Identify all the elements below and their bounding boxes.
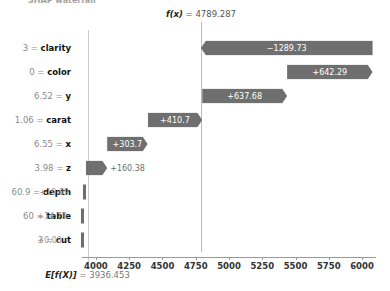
x-axis-tick (262, 257, 263, 260)
feature-name: z (66, 163, 71, 173)
waterfall-row: 1.06 = carat+410.7 (0, 108, 390, 132)
base-value-annotation: E[f(X)] = 3936.453 (45, 270, 130, 280)
feature-name: x (66, 139, 71, 149)
bar-value-label: +410.7 (160, 116, 190, 125)
x-axis-tick-label: 5000 (217, 261, 241, 271)
feature-value: 60 (23, 211, 34, 221)
bar-value-label: +642.29 (312, 68, 347, 77)
waterfall-bar: +303.7 (107, 137, 147, 152)
x-axis-tick-label: 6000 (350, 261, 374, 271)
x-axis-tick (296, 257, 297, 260)
feature-separator: = (34, 115, 47, 125)
bar-value-label: +303.7 (113, 140, 143, 149)
x-axis-tick (329, 257, 330, 260)
feature-separator: = (53, 91, 66, 101)
bar-value-label: +160.38 (110, 164, 145, 173)
waterfall-bar: +410.7 (148, 113, 203, 128)
feature-label: 1.06 = carat (15, 115, 71, 125)
feature-label: 6.52 = y (34, 91, 71, 101)
feature-label: 6.55 = x (34, 139, 71, 149)
waterfall-row: 3 = cut+0.08 (0, 228, 390, 252)
x-axis-tick (362, 257, 363, 260)
x-axis-tick-label: 5250 (250, 261, 274, 271)
waterfall-row: 60 = table+14.79 (0, 204, 390, 228)
x-axis-tick (196, 257, 197, 260)
base-value-annotation-value: = 3936.453 (77, 270, 130, 280)
x-axis-tick-label: 4750 (184, 261, 208, 271)
feature-label: 3.98 = z (35, 163, 71, 173)
feature-value: 1.06 (15, 115, 34, 125)
waterfall-bar (81, 233, 83, 248)
waterfall-row: 6.55 = x+303.7 (0, 132, 390, 156)
feature-label: 3 = clarity (23, 43, 71, 53)
bar-value-label: +637.68 (227, 92, 262, 101)
feature-separator: = (54, 163, 67, 173)
feature-separator: = (28, 43, 41, 53)
waterfall-bar (83, 185, 86, 200)
x-axis-tick (162, 257, 163, 260)
bar-value-label: −1289.73 (267, 44, 307, 53)
feature-name: carat (46, 115, 71, 125)
feature-name: clarity (41, 43, 71, 53)
fx-annotation: f(x) = 4789.287 (166, 9, 236, 19)
x-axis-tick-label: 4500 (151, 261, 175, 271)
bar-value-label: +19.09 (39, 188, 69, 197)
feature-separator: = (35, 67, 48, 77)
x-axis-tick-label: 5500 (284, 261, 308, 271)
bar-value-label: +0.08 (37, 236, 62, 245)
waterfall-bar: +642.29 (287, 65, 372, 80)
waterfall-bar (81, 209, 83, 224)
x-axis-tick (229, 257, 230, 260)
feature-separator: = (53, 139, 66, 149)
x-axis-tick (96, 257, 97, 260)
feature-value: 60.9 (11, 187, 30, 197)
fx-annotation-name: f(x) (166, 9, 183, 19)
feature-value: 6.52 (34, 91, 53, 101)
waterfall-bar: +637.68 (202, 89, 287, 104)
waterfall-bar: −1289.73 (201, 41, 373, 56)
feature-value: 3.98 (35, 163, 54, 173)
x-axis-tick (129, 257, 130, 260)
bar-value-label: +14.79 (37, 212, 67, 221)
feature-label: 0 = color (29, 67, 71, 77)
waterfall-row: 60.9 = depth+19.09 (0, 180, 390, 204)
waterfall-row: 6.52 = y+637.68 (0, 84, 390, 108)
feature-name: y (65, 91, 71, 101)
feature-value: 6.55 (34, 139, 53, 149)
waterfall-row: 3.98 = z+160.38 (0, 156, 390, 180)
waterfall-row: 0 = color+642.29 (0, 60, 390, 84)
waterfall-row: 3 = clarity−1289.73 (0, 36, 390, 60)
base-value-annotation-name: E[f(X)] (45, 270, 77, 280)
waterfall-bar (86, 161, 107, 176)
feature-name: color (47, 67, 71, 77)
clipped-title: SHAP waterfall (28, 0, 96, 5)
shap-waterfall-plot: SHAP waterfall f(x) = 4789.287 3 = clari… (0, 0, 390, 291)
fx-annotation-value: = 4789.287 (183, 9, 236, 19)
x-axis-tick-label: 5750 (317, 261, 341, 271)
